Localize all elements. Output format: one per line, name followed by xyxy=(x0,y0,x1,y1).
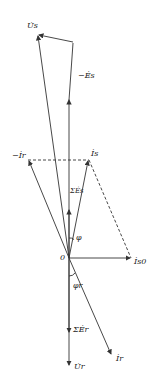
figure-caption xyxy=(0,380,158,388)
label-neg-Ir: −İr xyxy=(12,152,26,160)
label-Ir: İr xyxy=(116,355,123,363)
phasor-top-link xyxy=(39,35,73,42)
angle-phi-r-arc xyxy=(69,273,75,276)
label-Is: İs xyxy=(91,150,98,158)
label-Is0: İs0 xyxy=(134,258,146,266)
label-phi-r: φr xyxy=(73,282,82,290)
label-phi: φ xyxy=(76,234,82,242)
dashed-diagonal xyxy=(89,160,131,258)
label-origin: 0 xyxy=(60,254,65,262)
label-sum-Er: ΣĖr xyxy=(73,326,88,334)
label-Us: U̇s xyxy=(27,22,38,30)
phasor-Ir xyxy=(69,258,111,354)
phasor-neg-Es xyxy=(69,43,73,100)
label-Ur: U̇r xyxy=(74,363,85,371)
phasor-Is xyxy=(69,161,88,258)
phasor-neg-Ir xyxy=(29,161,69,258)
label-sum-Es: ΣĖs xyxy=(70,188,84,195)
label-neg-Es: −Ės xyxy=(78,72,95,80)
phasor-Us xyxy=(38,36,69,258)
